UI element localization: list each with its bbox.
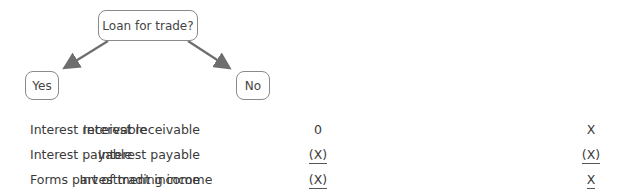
no-row-value: (X) (579, 147, 603, 163)
no-row-value: X (579, 172, 603, 188)
no-row-label: Investment income (79, 172, 200, 188)
decision-arrows (0, 0, 618, 195)
no-label: No (245, 80, 261, 92)
question-label: Loan for trade? (102, 20, 193, 32)
no-node: No (236, 71, 270, 100)
no-row-label: Interest receivable (83, 122, 200, 138)
yes-label: Yes (32, 80, 51, 92)
yes-row-value: 0 (306, 122, 330, 138)
yes-node: Yes (25, 71, 59, 100)
no-row-label: Interest payable (98, 147, 200, 163)
question-node: Loan for trade? (98, 10, 198, 41)
yes-row-value: (X) (306, 147, 330, 163)
no-row-value: X (579, 122, 603, 138)
arrow-to-no (188, 41, 228, 67)
arrow-to-yes (66, 41, 108, 67)
yes-row-value: (X) (306, 172, 330, 188)
